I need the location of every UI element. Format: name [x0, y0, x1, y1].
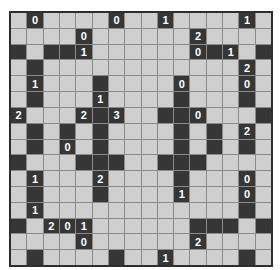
empty-cell[interactable]	[207, 203, 222, 218]
empty-cell[interactable]	[109, 60, 124, 75]
empty-cell[interactable]	[223, 124, 238, 139]
empty-cell[interactable]	[76, 171, 91, 186]
empty-cell[interactable]	[60, 155, 75, 170]
empty-cell[interactable]	[256, 29, 271, 44]
empty-cell[interactable]	[256, 234, 271, 249]
empty-cell[interactable]	[44, 140, 59, 155]
empty-cell[interactable]	[223, 60, 238, 75]
empty-cell[interactable]	[76, 140, 91, 155]
empty-cell[interactable]	[256, 187, 271, 202]
empty-cell[interactable]	[44, 13, 59, 28]
empty-cell[interactable]	[142, 45, 157, 60]
empty-cell[interactable]	[44, 108, 59, 123]
empty-cell[interactable]	[223, 155, 238, 170]
empty-cell[interactable]	[93, 13, 108, 28]
empty-cell[interactable]	[11, 234, 26, 249]
empty-cell[interactable]	[142, 187, 157, 202]
empty-cell[interactable]	[109, 187, 124, 202]
empty-cell[interactable]	[190, 60, 205, 75]
empty-cell[interactable]	[44, 203, 59, 218]
empty-cell[interactable]	[60, 171, 75, 186]
empty-cell[interactable]	[60, 29, 75, 44]
empty-cell[interactable]	[239, 29, 254, 44]
empty-cell[interactable]	[60, 108, 75, 123]
empty-cell[interactable]	[125, 155, 140, 170]
empty-cell[interactable]	[11, 203, 26, 218]
empty-cell[interactable]	[76, 203, 91, 218]
empty-cell[interactable]	[76, 124, 91, 139]
empty-cell[interactable]	[239, 219, 254, 234]
empty-cell[interactable]	[76, 92, 91, 107]
empty-cell[interactable]	[223, 140, 238, 155]
empty-cell[interactable]	[142, 60, 157, 75]
empty-cell[interactable]	[207, 13, 222, 28]
empty-cell[interactable]	[125, 187, 140, 202]
empty-cell[interactable]	[190, 187, 205, 202]
empty-cell[interactable]	[76, 60, 91, 75]
empty-cell[interactable]	[93, 60, 108, 75]
empty-cell[interactable]	[174, 29, 189, 44]
empty-cell[interactable]	[174, 45, 189, 60]
empty-cell[interactable]	[125, 60, 140, 75]
empty-cell[interactable]	[207, 155, 222, 170]
empty-cell[interactable]	[142, 155, 157, 170]
empty-cell[interactable]	[27, 108, 42, 123]
empty-cell[interactable]	[142, 203, 157, 218]
empty-cell[interactable]	[109, 45, 124, 60]
empty-cell[interactable]	[158, 76, 173, 91]
empty-cell[interactable]	[60, 234, 75, 249]
empty-cell[interactable]	[142, 92, 157, 107]
empty-cell[interactable]	[158, 92, 173, 107]
empty-cell[interactable]	[256, 203, 271, 218]
empty-cell[interactable]	[60, 92, 75, 107]
empty-cell[interactable]	[60, 203, 75, 218]
empty-cell[interactable]	[44, 187, 59, 202]
empty-cell[interactable]	[223, 92, 238, 107]
empty-cell[interactable]	[256, 250, 271, 265]
empty-cell[interactable]	[125, 140, 140, 155]
empty-cell[interactable]	[174, 60, 189, 75]
empty-cell[interactable]	[190, 171, 205, 186]
empty-cell[interactable]	[207, 76, 222, 91]
empty-cell[interactable]	[109, 124, 124, 139]
empty-cell[interactable]	[223, 171, 238, 186]
empty-cell[interactable]	[109, 29, 124, 44]
empty-cell[interactable]	[11, 250, 26, 265]
empty-cell[interactable]	[93, 45, 108, 60]
empty-cell[interactable]	[60, 187, 75, 202]
empty-cell[interactable]	[44, 60, 59, 75]
empty-cell[interactable]	[174, 13, 189, 28]
empty-cell[interactable]	[256, 171, 271, 186]
empty-cell[interactable]	[27, 219, 42, 234]
empty-cell[interactable]	[158, 29, 173, 44]
empty-cell[interactable]	[158, 234, 173, 249]
empty-cell[interactable]	[158, 203, 173, 218]
empty-cell[interactable]	[190, 13, 205, 28]
empty-cell[interactable]	[125, 45, 140, 60]
empty-cell[interactable]	[125, 234, 140, 249]
empty-cell[interactable]	[44, 29, 59, 44]
empty-cell[interactable]	[158, 187, 173, 202]
empty-cell[interactable]	[125, 124, 140, 139]
empty-cell[interactable]	[158, 45, 173, 60]
empty-cell[interactable]	[142, 171, 157, 186]
empty-cell[interactable]	[223, 203, 238, 218]
empty-cell[interactable]	[76, 76, 91, 91]
empty-cell[interactable]	[142, 124, 157, 139]
empty-cell[interactable]	[142, 140, 157, 155]
empty-cell[interactable]	[256, 13, 271, 28]
empty-cell[interactable]	[11, 76, 26, 91]
empty-cell[interactable]	[125, 108, 140, 123]
empty-cell[interactable]	[207, 108, 222, 123]
empty-cell[interactable]	[256, 92, 271, 107]
empty-cell[interactable]	[239, 234, 254, 249]
empty-cell[interactable]	[142, 250, 157, 265]
empty-cell[interactable]	[44, 155, 59, 170]
empty-cell[interactable]	[109, 76, 124, 91]
empty-cell[interactable]	[109, 234, 124, 249]
empty-cell[interactable]	[76, 250, 91, 265]
empty-cell[interactable]	[44, 234, 59, 249]
empty-cell[interactable]	[109, 203, 124, 218]
empty-cell[interactable]	[190, 124, 205, 139]
empty-cell[interactable]	[125, 250, 140, 265]
